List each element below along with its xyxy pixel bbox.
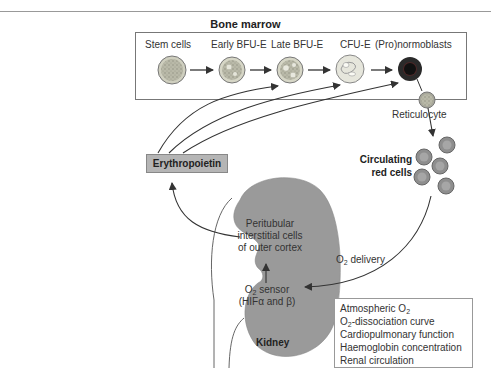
o2-sensor-o: O bbox=[245, 284, 253, 295]
cfu-e-cell-icon bbox=[336, 55, 364, 83]
factor-suffix: -dissociation curve bbox=[352, 316, 435, 327]
hif-label: (HIFα and β) bbox=[232, 296, 302, 308]
peritubular-cells-label: Peritubular interstitial cells of outer … bbox=[230, 218, 310, 254]
red-blood-cells-icon bbox=[414, 137, 455, 194]
factor-text: Haemoglobin concentration bbox=[340, 342, 462, 353]
peritubular-line2: interstitial cells bbox=[230, 230, 310, 242]
kidney-label: Kidney bbox=[256, 337, 289, 348]
erythropoietin-box: Erythropoietin bbox=[146, 154, 228, 173]
reticulocyte-label: Reticulocyte bbox=[392, 109, 446, 120]
o2-delivery-label: O2 delivery bbox=[336, 254, 385, 265]
o2-sensor-label: O2 sensor (HIFα and β) bbox=[232, 284, 302, 308]
peritubular-line1: Peritubular bbox=[230, 218, 310, 230]
factor-item: Cardiopulmonary function bbox=[340, 328, 472, 341]
pronormoblast-cell-icon bbox=[398, 57, 422, 81]
circulating-line2: red cells bbox=[357, 166, 412, 179]
factor-text: Atmospheric O bbox=[340, 303, 406, 314]
factor-item: Atmospheric O2 bbox=[340, 302, 472, 315]
factor-sub: 2 bbox=[406, 308, 410, 315]
factor-item: Renal circulation bbox=[340, 354, 472, 367]
o2-delivery-o: O bbox=[336, 254, 344, 265]
stem-cell-icon bbox=[158, 56, 186, 84]
oxygen-factors-box: Atmospheric O2 O2-dissociation curve Car… bbox=[334, 298, 473, 368]
peritubular-line3: of outer cortex bbox=[230, 242, 310, 254]
late-bfu-e-cell-icon bbox=[277, 57, 303, 83]
kidney-shape bbox=[234, 178, 341, 357]
factor-item: Haemoglobin concentration bbox=[340, 341, 472, 354]
o2-delivery-text: delivery bbox=[348, 254, 385, 265]
factor-text: O bbox=[340, 316, 348, 327]
circulating-red-cells-label: Circulating red cells bbox=[357, 153, 412, 179]
factor-item: O2-dissociation curve bbox=[340, 315, 472, 328]
early-bfu-e-cell-icon bbox=[219, 57, 245, 83]
factor-text: Renal circulation bbox=[340, 355, 414, 366]
circulating-line1: Circulating bbox=[357, 153, 412, 166]
factor-text: Cardiopulmonary function bbox=[340, 329, 454, 340]
reticulocyte-icon bbox=[419, 92, 435, 108]
o2-sensor-text: sensor bbox=[256, 284, 289, 295]
